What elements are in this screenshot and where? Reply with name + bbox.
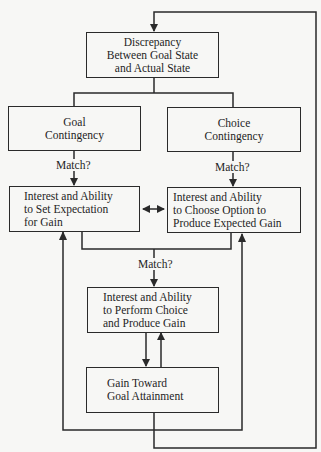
node-text: to Set Expectation [24, 203, 108, 216]
node-text: Choice [218, 117, 251, 130]
set-expectation-node: Interest and Ability to Set Expectation … [9, 186, 140, 232]
node-text: Interest and Ability [103, 291, 192, 304]
node-text: Contingency [205, 130, 264, 143]
node-text: Between Goal State [107, 49, 198, 62]
node-text: and Actual State [115, 62, 190, 75]
choose-option-node: Interest and Ability to Choose Option to… [167, 187, 301, 233]
discrepancy-node: Discrepancy Between Goal State and Actua… [86, 32, 219, 78]
node-text: to Choose Option to [173, 204, 266, 217]
choice-match-label: Match? [214, 161, 250, 173]
node-text: Interest and Ability [173, 191, 262, 204]
center-match-label: Match? [137, 258, 173, 270]
perform-choice-node: Interest and Ability to Perform Choice a… [87, 287, 219, 333]
node-text: Contingency [45, 129, 104, 142]
node-text: to Perform Choice [103, 304, 188, 317]
goal-match-label: Match? [55, 159, 91, 171]
node-text: Interest and Ability [24, 190, 113, 203]
gain-node: Gain Toward Goal Attainment [86, 367, 219, 413]
node-text: and Produce Gain [103, 317, 185, 330]
choice-contingency-node: Choice Contingency [167, 107, 301, 152]
node-text: for Gain [24, 216, 63, 229]
goal-contingency-node: Goal Contingency [8, 106, 141, 151]
node-text: Gain Toward [107, 377, 167, 390]
node-text: Goal Attainment [107, 390, 183, 403]
node-text: Discrepancy [124, 36, 181, 49]
node-text: Goal [63, 116, 85, 129]
node-text: Produce Expected Gain [173, 217, 282, 230]
